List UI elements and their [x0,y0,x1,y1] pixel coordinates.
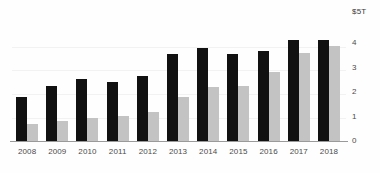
bar [197,48,208,142]
bar-group [103,20,133,142]
y-axis-unit-label: $5T [352,8,366,16]
bar-group [12,20,42,142]
bar-group [314,20,344,142]
bar [107,82,118,142]
bars-layer [12,20,344,142]
x-axis-baseline [10,141,348,142]
x-axis-tick-label: 2012 [133,147,163,157]
x-axis-tick-label: 2008 [12,147,42,157]
bar [27,124,38,142]
bar [76,79,87,142]
bar [46,86,57,142]
x-axis-tick-label: 2009 [42,147,72,157]
y-axis-tick-label: 4 [352,39,357,47]
x-axis-tick-label: 2010 [72,147,102,157]
x-axis-tick-label: 2011 [103,147,133,157]
bar [329,46,340,142]
bar [227,54,238,142]
bar-group [133,20,163,142]
y-axis-tick-label: 2 [352,88,357,96]
x-axis-tick-label: 2016 [254,147,284,157]
y-axis-tick-label: 1 [352,113,357,121]
x-axis-tick-label: 2014 [193,147,223,157]
bar [299,53,310,142]
y-axis-tick-label: 3 [352,64,357,72]
bar [269,72,280,142]
y-axis: $5T 01234 [352,0,380,173]
bar [87,118,98,142]
x-axis: 2008200920102011201220132014201520162017… [12,147,344,157]
bar [16,97,27,142]
bar [208,87,219,142]
x-axis-tick-label: 2013 [163,147,193,157]
bar-group [284,20,314,142]
bar [57,121,68,142]
bar-group [42,20,72,142]
bar-group [72,20,102,142]
x-axis-tick-label: 2017 [284,147,314,157]
bar [318,40,329,142]
bar [148,112,159,143]
y-axis-tick-label: 0 [352,137,357,145]
bar-group [163,20,193,142]
x-axis-tick-label: 2018 [314,147,344,157]
bar-group [223,20,253,142]
bar [288,40,299,142]
bar-group [193,20,223,142]
bar [238,86,249,142]
bar [258,51,269,143]
bar [167,54,178,142]
bar [178,97,189,142]
bar [118,116,129,142]
bar-group [254,20,284,142]
x-axis-tick-label: 2015 [223,147,253,157]
bar-chart: $5T 01234 200820092010201120122013201420… [0,0,380,173]
bar [137,76,148,142]
plot-area [12,20,344,142]
